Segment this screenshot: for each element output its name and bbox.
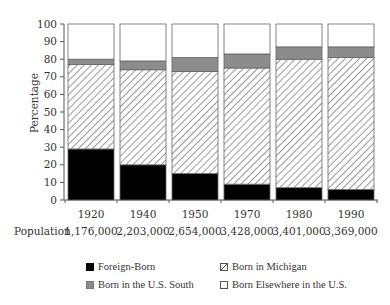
bar-1970 <box>224 24 270 200</box>
y-tick-label: 10 <box>44 176 57 188</box>
y-tick-label: 70 <box>44 70 57 82</box>
legend-swatch-black <box>86 263 94 271</box>
bar-1990 <box>328 24 374 200</box>
legend-item-born-elsewhere: Born Elsewhere in the U.S. <box>220 279 347 290</box>
legend-item-born-in-south: Born in the U.S. South <box>86 279 194 290</box>
bar-segment-foreign-born-1950 <box>172 174 218 200</box>
bar-segment-born-in-michigan-1920 <box>68 64 114 148</box>
bar-segment-born-elsewhere-in-the-u-s--1950 <box>172 24 218 57</box>
bar-segment-born-in-the-u-s-south-1940 <box>120 61 166 70</box>
legend-swatch-white <box>220 281 228 289</box>
bar-segment-foreign-born-1980 <box>276 188 322 200</box>
population-value: 3,428,000 <box>220 225 273 237</box>
bar-1950 <box>172 24 218 200</box>
legend-item-born-in-michigan: Born in Michigan <box>220 261 307 272</box>
x-tick-label: 1980 <box>286 208 313 220</box>
bar-segment-born-in-the-u-s-south-1980 <box>276 47 322 59</box>
y-tick-label: 40 <box>44 123 57 135</box>
bar-segment-born-in-the-u-s-south-1990 <box>328 47 374 58</box>
population-label: Population <box>14 225 71 237</box>
legend-label: Born in the U.S. South <box>98 279 194 290</box>
bar-segment-foreign-born-1990 <box>328 189 374 200</box>
x-axis-labels: 19201,176,00019402,203,00019502,654,0001… <box>64 208 377 237</box>
y-tick-label: 60 <box>44 88 57 100</box>
bar-segment-born-in-michigan-1990 <box>328 57 374 189</box>
bar-segment-born-in-the-u-s-south-1920 <box>68 59 114 64</box>
y-tick-label: 30 <box>44 141 57 153</box>
y-axis-label: Percentage <box>28 73 40 133</box>
y-tick-label: 80 <box>44 53 57 65</box>
y-tick-label: 0 <box>50 194 57 206</box>
bar-segment-born-in-michigan-1950 <box>172 72 218 174</box>
population-value: 2,654,000 <box>168 225 221 237</box>
x-tick-label: 1990 <box>338 208 365 220</box>
legend-label: Born Elsewhere in the U.S. <box>232 279 347 290</box>
stacked-bar-chart: 0102030405060708090100 19201,176,0001940… <box>0 0 390 250</box>
x-tick-label: 1940 <box>130 208 157 220</box>
bar-segment-born-elsewhere-in-the-u-s--1990 <box>328 24 374 47</box>
x-tick-label: 1950 <box>182 208 209 220</box>
bar-segment-foreign-born-1940 <box>120 165 166 200</box>
bar-segment-born-elsewhere-in-the-u-s--1970 <box>224 24 270 54</box>
bar-segment-foreign-born-1970 <box>224 184 270 200</box>
population-value: 1,176,000 <box>64 225 117 237</box>
bar-segment-foreign-born-1920 <box>68 149 114 200</box>
legend-swatch-gray <box>86 281 94 289</box>
bars <box>68 24 374 200</box>
y-tick-label: 20 <box>44 158 57 170</box>
bar-1920 <box>68 24 114 200</box>
bar-segment-born-in-the-u-s-south-1950 <box>172 57 218 71</box>
y-tick-label: 90 <box>44 35 57 47</box>
y-tick-label: 50 <box>44 106 57 118</box>
legend-swatch-hatch <box>220 263 228 271</box>
bar-segment-born-elsewhere-in-the-u-s--1940 <box>120 24 166 61</box>
legend-item-foreign-born: Foreign-Born <box>86 261 155 272</box>
population-value: 3,369,000 <box>324 225 377 237</box>
bar-segment-born-elsewhere-in-the-u-s--1980 <box>276 24 322 47</box>
bar-segment-born-elsewhere-in-the-u-s--1920 <box>68 24 114 59</box>
population-value: 2,203,000 <box>116 225 169 237</box>
x-tick-label: 1920 <box>78 208 105 220</box>
x-tick-label: 1970 <box>234 208 261 220</box>
bar-segment-born-in-the-u-s-south-1970 <box>224 54 270 68</box>
bar-1940 <box>120 24 166 200</box>
y-tick-label: 100 <box>37 18 57 30</box>
bar-segment-born-in-michigan-1940 <box>120 70 166 165</box>
bar-segment-born-in-michigan-1980 <box>276 59 322 187</box>
legend-label: Born in Michigan <box>232 261 307 272</box>
population-value: 3,401,000 <box>272 225 325 237</box>
bar-segment-born-in-michigan-1970 <box>224 68 270 184</box>
bar-1980 <box>276 24 322 200</box>
legend-label: Foreign-Born <box>98 261 155 272</box>
